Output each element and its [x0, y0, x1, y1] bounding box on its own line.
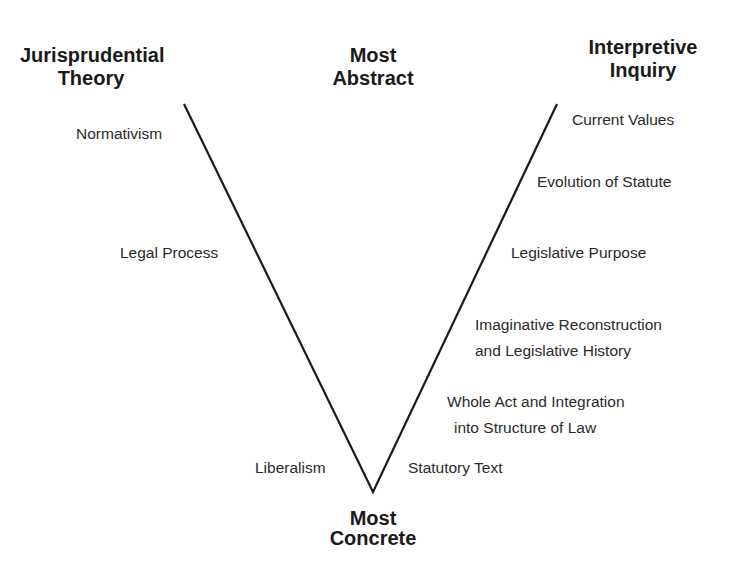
inquiry-line: Whole Act and Integration	[447, 389, 625, 415]
inquiry-legislative-purpose: Legislative Purpose	[511, 244, 646, 262]
header-jurisprudential-theory: Jurisprudential Theory	[20, 44, 162, 90]
inquiry-statutory-text: Statutory Text	[408, 459, 502, 477]
header-line: Theory	[20, 67, 162, 90]
inquiry-line: and Legislative History	[475, 338, 662, 364]
header-most-abstract: Most Abstract	[318, 44, 428, 90]
inquiry-evolution-of-statute: Evolution of Statute	[537, 173, 671, 191]
header-line: Jurisprudential	[20, 44, 162, 67]
inquiry-current-values: Current Values	[572, 111, 674, 129]
header-line: Most	[318, 508, 428, 528]
inquiry-line: Imaginative Reconstruction	[475, 312, 662, 338]
header-line: Most	[318, 44, 428, 67]
header-interpretive-inquiry: Interpretive Inquiry	[578, 36, 708, 82]
theory-liberalism: Liberalism	[255, 459, 326, 477]
header-line: Concrete	[318, 528, 428, 548]
header-line: Interpretive	[578, 36, 708, 59]
inquiry-imaginative-reconstruction: Imaginative Reconstruction and Legislati…	[475, 312, 662, 364]
header-line: Abstract	[318, 67, 428, 90]
inquiry-line: into Structure of Law	[447, 415, 625, 441]
header-line: Inquiry	[578, 59, 708, 82]
theory-normativism: Normativism	[76, 125, 162, 143]
theory-legal-process: Legal Process	[120, 244, 218, 262]
header-most-concrete: Most Concrete	[318, 508, 428, 548]
inquiry-whole-act: Whole Act and Integration into Structure…	[447, 389, 625, 441]
